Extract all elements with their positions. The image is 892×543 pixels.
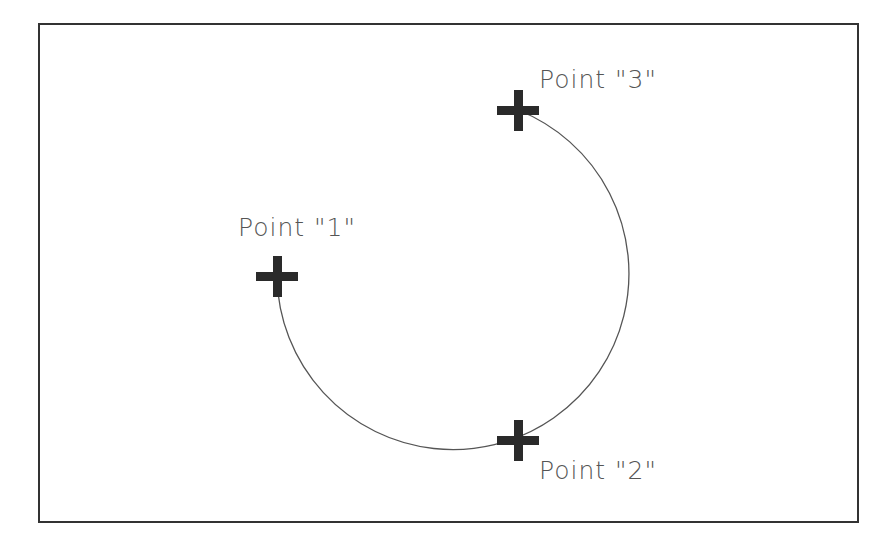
arc-diagram: Point "1" Point "3" Point "2" <box>0 0 892 543</box>
point-1-marker <box>256 256 298 297</box>
point-2-label: Point "2" <box>539 456 657 485</box>
point-1-label: Point "1" <box>238 213 356 242</box>
point-2-marker <box>497 420 539 461</box>
drawing-frame <box>39 24 858 522</box>
point-3-marker <box>497 90 539 131</box>
point-3-label: Point "3" <box>539 65 657 94</box>
three-point-arc <box>277 110 629 450</box>
